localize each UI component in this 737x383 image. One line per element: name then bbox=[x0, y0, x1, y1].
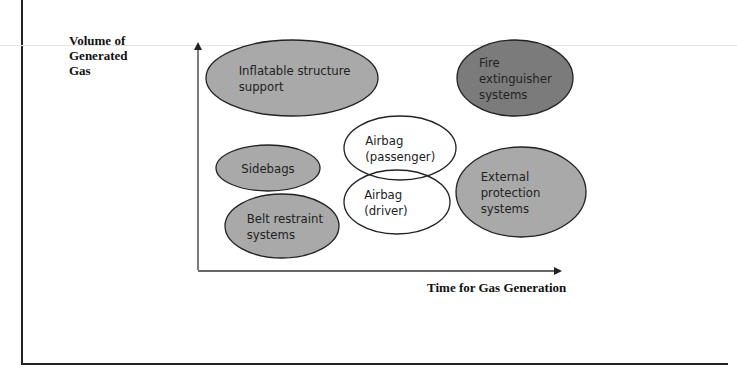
node-label-line: systems bbox=[481, 201, 529, 216]
node-sidebags: Sidebags bbox=[216, 145, 320, 191]
node-label-line: Inflatable structure bbox=[239, 63, 351, 78]
node-label-line: protection bbox=[481, 185, 541, 200]
node-ellipse bbox=[344, 170, 450, 234]
node-belt-restraint-systems: Belt restraintsystems bbox=[225, 194, 339, 258]
diagram-canvas: Volume of Generated Gas Time for Gas Gen… bbox=[0, 0, 737, 383]
node-ellipse bbox=[225, 194, 339, 258]
diagram-graphic: Inflatable structuresupportFireextinguis… bbox=[0, 0, 737, 383]
node-label-line: Airbag bbox=[364, 187, 402, 202]
node-inflatable-structure-support: Inflatable structuresupport bbox=[206, 40, 378, 116]
node-label-line: (driver) bbox=[364, 203, 408, 218]
node-label-line: Belt restraint bbox=[247, 211, 324, 226]
node-label-line: systems bbox=[479, 87, 527, 102]
node-label-line: External bbox=[481, 169, 530, 184]
node-fire-extinguisher-systems: Fireextinguishersystems bbox=[457, 40, 573, 116]
node-label-line: systems bbox=[247, 227, 295, 242]
node-label-line: extinguisher bbox=[479, 71, 552, 86]
node-label-line: support bbox=[239, 79, 284, 94]
node-label-line: Fire bbox=[479, 55, 500, 70]
node-label-line: Sidebags bbox=[241, 161, 294, 176]
node-external-protection-systems: Externalprotectionsystems bbox=[456, 147, 586, 237]
node-airbag-driver: Airbag(driver) bbox=[344, 170, 450, 234]
node-label-line: (passenger) bbox=[365, 149, 435, 164]
node-ellipse bbox=[206, 40, 378, 116]
nodes-layer: Inflatable structuresupportFireextinguis… bbox=[206, 40, 586, 258]
node-label-line: Airbag bbox=[365, 133, 403, 148]
